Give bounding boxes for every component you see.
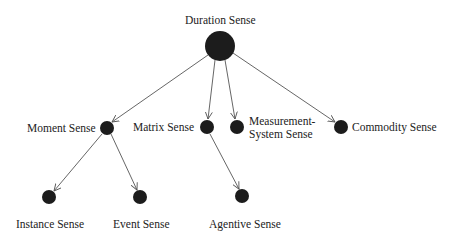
- node-moment-sense: [100, 121, 114, 135]
- label-measurement-system-sense-line2: System Sense: [249, 128, 313, 140]
- edge-duration-commodity: [233, 53, 335, 122]
- edge-duration-moment: [112, 55, 208, 122]
- node-matrix-sense: [200, 120, 214, 134]
- label-instance-sense: Instance Sense: [16, 218, 84, 230]
- label-measurement-system-sense-line1: Measurement-: [249, 115, 315, 127]
- label-matrix-sense: Matrix Sense: [133, 121, 194, 133]
- edge-moment-event: [111, 134, 137, 190]
- node-event-sense: [133, 190, 147, 204]
- edge-duration-measurement: [225, 60, 235, 119]
- node-duration-sense: [205, 31, 235, 61]
- label-event-sense: Event Sense: [113, 218, 170, 230]
- label-agentive-sense: Agentive Sense: [209, 218, 281, 230]
- node-instance-sense: [42, 190, 56, 204]
- edge-matrix-agentive: [210, 134, 239, 189]
- label-commodity-sense: Commodity Sense: [352, 121, 437, 133]
- edge-moment-instance: [54, 134, 102, 191]
- label-duration-sense: Duration Sense: [185, 14, 256, 26]
- node-measurement-system-sense: [230, 120, 244, 134]
- node-agentive-sense: [235, 189, 249, 203]
- edge-duration-matrix: [208, 60, 215, 119]
- label-moment-sense: Moment Sense: [27, 122, 96, 134]
- node-commodity-sense: [334, 120, 348, 134]
- sense-hierarchy-diagram: [0, 0, 460, 238]
